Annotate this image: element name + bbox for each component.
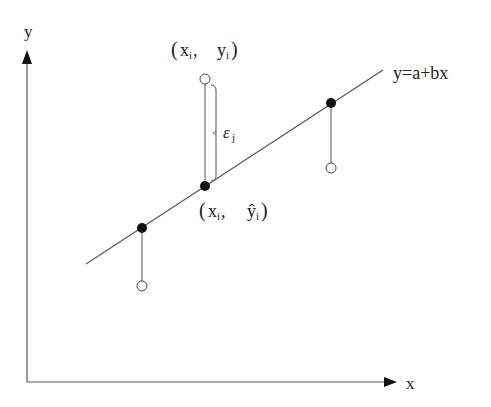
observed-point	[326, 163, 336, 173]
comma: ,	[221, 201, 226, 221]
y-sub: i	[226, 49, 229, 61]
axes: y x	[22, 22, 415, 393]
data-point-3	[326, 98, 336, 173]
data-point-1	[137, 223, 147, 291]
regression-equation-label: y=a+bx	[393, 63, 448, 83]
x-axis-label: x	[406, 374, 415, 393]
regression-line	[86, 70, 383, 264]
x-sub: i	[217, 210, 220, 222]
y-axis-arrow-icon	[22, 50, 32, 64]
comma: ,	[193, 40, 198, 60]
x-sub: i	[189, 49, 192, 61]
regression-diagram: y x y=a+bx ( x i , y i ) ε j	[0, 0, 491, 407]
data-point-2	[200, 74, 216, 191]
paren-open: (	[171, 38, 178, 61]
epsilon-sub: j	[231, 131, 235, 143]
x-axis-arrow-icon	[384, 377, 397, 387]
paren-close: )	[261, 199, 268, 222]
fitted-point	[326, 98, 336, 108]
paren-open: (	[199, 199, 206, 222]
x-var: x	[180, 40, 189, 60]
fitted-point	[200, 181, 210, 191]
y-var: y	[217, 40, 226, 60]
observed-point	[200, 74, 210, 84]
fitted-point-label: ( x i , ŷ i )	[199, 199, 268, 222]
paren-close: )	[231, 38, 238, 61]
y-hat-var: ŷ	[247, 201, 256, 221]
epsilon-symbol: ε	[223, 123, 230, 142]
x-var: x	[208, 201, 217, 221]
fitted-point	[137, 223, 147, 233]
residual-label: ε j	[223, 123, 235, 143]
y-sub: i	[256, 210, 259, 222]
observed-point-label: ( x i , y i )	[171, 38, 238, 61]
observed-point	[137, 281, 147, 291]
y-axis-label: y	[24, 22, 33, 41]
